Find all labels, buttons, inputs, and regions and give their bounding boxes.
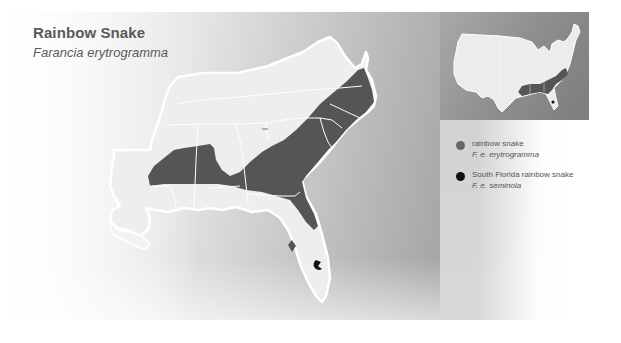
legend-scientific-name: F. e. seminola <box>472 181 521 190</box>
inset-us-map <box>440 12 589 120</box>
place-marker <box>262 128 268 130</box>
legend-label: rainbow snake <box>472 139 524 148</box>
us-outline <box>454 24 580 112</box>
legend-label: South Florida rainbow snake <box>472 170 573 179</box>
gray-circle-icon <box>456 141 465 150</box>
inset-seminola <box>551 100 554 103</box>
range-map <box>0 0 440 343</box>
black-circle-icon <box>456 172 465 181</box>
legend-scientific-name: F. e. erytrogramma <box>472 150 539 159</box>
